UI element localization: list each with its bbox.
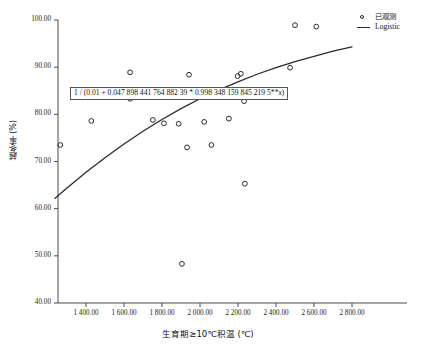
x-tick-label: 2 200.00 bbox=[218, 310, 258, 317]
y-tick-label: 90.00 bbox=[0, 63, 51, 70]
y-tick-label: 80.00 bbox=[0, 110, 51, 117]
legend-item-logistic: Logistic bbox=[356, 22, 400, 32]
legend-label-logistic: Logistic bbox=[375, 22, 400, 32]
x-axis-title: 生育期≥10℃积温 (℃) bbox=[58, 327, 358, 339]
y-axis-title: 越冬率 (%) bbox=[10, 120, 26, 160]
equation-prefix: 1 / (0.01 + 0.047 898 441 764 882 39 * 0… bbox=[74, 88, 278, 97]
data-point bbox=[185, 145, 190, 150]
x-tick-label: 1 400.00 bbox=[66, 310, 106, 317]
equation-annotation: 1 / (0.01 + 0.047 898 441 764 882 39 * 0… bbox=[70, 87, 288, 100]
open-circle-marker-icon bbox=[356, 12, 372, 22]
data-point bbox=[58, 143, 63, 148]
x-tick-label: 2 800.00 bbox=[332, 310, 372, 317]
x-tick-label: 2 600.00 bbox=[294, 310, 334, 317]
data-point bbox=[242, 181, 247, 186]
chart-figure: 40.0050.0060.0070.0080.0090.00100.00 1 4… bbox=[0, 0, 424, 354]
y-axis-ticks bbox=[54, 20, 58, 303]
legend-item-observed: 已观测 bbox=[356, 12, 400, 22]
data-point bbox=[209, 143, 214, 148]
legend-label-observed: 已观测 bbox=[375, 12, 396, 22]
data-point bbox=[293, 23, 298, 28]
x-tick-label: 2 400.00 bbox=[256, 310, 296, 317]
data-point bbox=[89, 119, 94, 124]
data-point bbox=[202, 119, 207, 124]
plot-area bbox=[0, 0, 424, 354]
x-tick-label: 2 000.00 bbox=[180, 310, 220, 317]
observed-data-points bbox=[58, 23, 319, 266]
x-axis-ticks bbox=[86, 303, 352, 307]
equation-suffix: ) bbox=[282, 88, 285, 97]
logistic-curve bbox=[55, 47, 352, 198]
data-point bbox=[176, 121, 181, 126]
data-point bbox=[288, 65, 293, 70]
x-tick-label: 1 800.00 bbox=[142, 310, 182, 317]
chart-legend: 已观测 Logistic bbox=[356, 12, 400, 32]
y-tick-label: 100.00 bbox=[0, 16, 51, 23]
data-point bbox=[180, 261, 185, 266]
line-marker-icon bbox=[356, 22, 372, 32]
data-point bbox=[314, 24, 319, 29]
data-point bbox=[162, 121, 167, 126]
data-point bbox=[128, 70, 133, 75]
data-point bbox=[226, 116, 231, 121]
data-point bbox=[187, 72, 192, 77]
data-point bbox=[150, 118, 155, 123]
y-tick-label: 50.00 bbox=[0, 252, 51, 259]
x-tick-label: 1 600.00 bbox=[104, 310, 144, 317]
y-tick-label: 40.00 bbox=[0, 299, 51, 306]
y-tick-label: 60.00 bbox=[0, 205, 51, 212]
